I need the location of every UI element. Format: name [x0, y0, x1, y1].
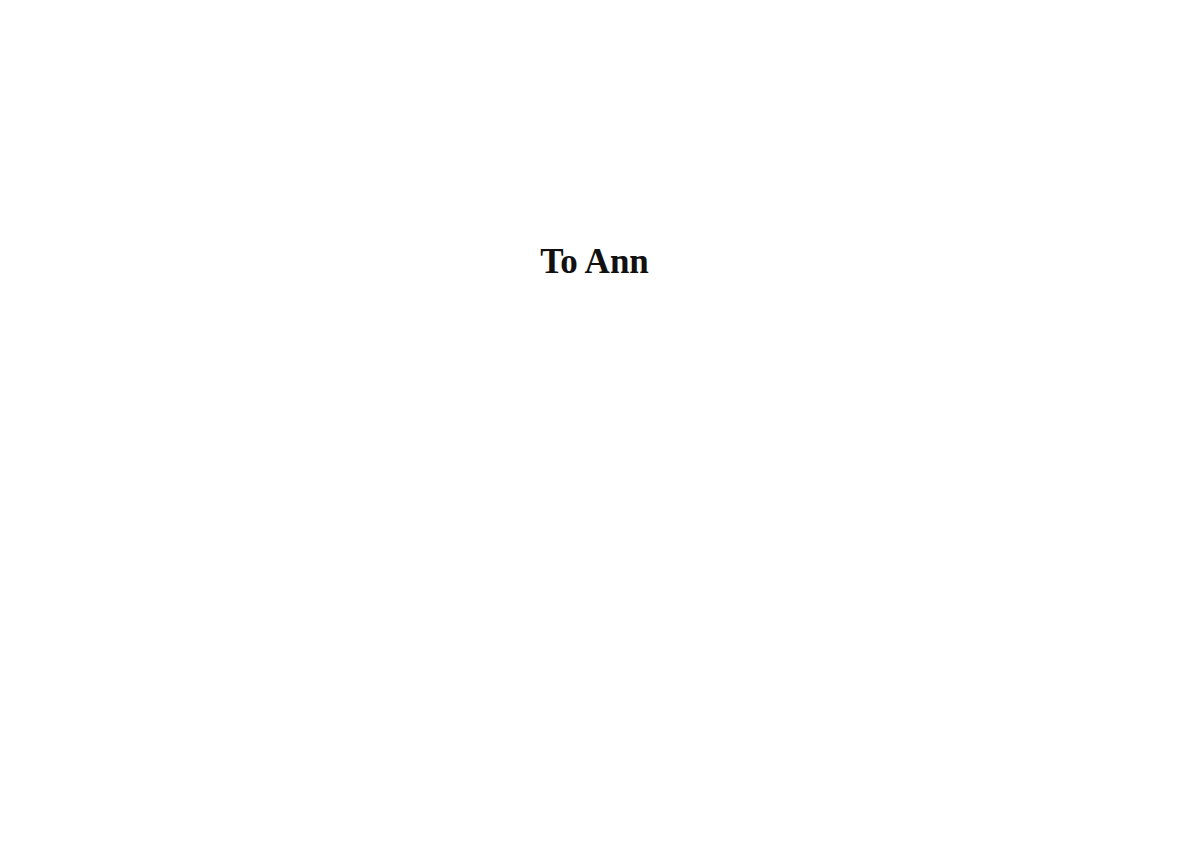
- document-page: To Ann: [0, 0, 1179, 863]
- dedication-text: To Ann: [0, 240, 1179, 284]
